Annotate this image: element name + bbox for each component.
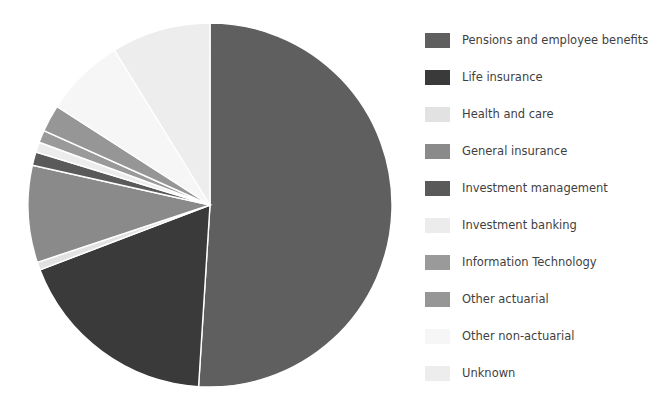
legend-item: General insurance <box>425 133 635 170</box>
legend-item: Unknown <box>425 355 635 392</box>
legend-item-label: Unknown <box>462 367 515 381</box>
pie-svg <box>28 23 392 387</box>
legend-item-label: Other actuarial <box>462 293 549 307</box>
legend-item-label: Investment management <box>462 182 608 196</box>
legend-swatch <box>425 255 450 270</box>
legend-swatch <box>425 329 450 344</box>
legend-item: Investment banking <box>425 207 635 244</box>
pie-plot-area <box>28 23 392 387</box>
legend-item-label: Pensions and employee benefits <box>462 34 648 48</box>
pie-slice <box>199 23 392 387</box>
legend-swatch <box>425 33 450 48</box>
legend-swatch <box>425 70 450 85</box>
legend-item: Other actuarial <box>425 281 635 318</box>
legend-item-label: Other non-actuarial <box>462 330 574 344</box>
legend-swatch <box>425 292 450 307</box>
legend-item: Pensions and employee benefits <box>425 22 635 59</box>
legend-swatch <box>425 218 450 233</box>
legend-item-label: Life insurance <box>462 71 543 85</box>
legend-swatch <box>425 144 450 159</box>
legend-item: Information Technology <box>425 244 635 281</box>
legend-item-label: Information Technology <box>462 256 597 270</box>
legend-item-label: Investment banking <box>462 219 577 233</box>
clipped-title-strip <box>0 0 635 9</box>
legend-item: Health and care <box>425 96 635 133</box>
legend-item-label: General insurance <box>462 145 567 159</box>
legend-item: Investment management <box>425 170 635 207</box>
legend-item: Life insurance <box>425 59 635 96</box>
legend-swatch <box>425 181 450 196</box>
legend-item: Other non-actuarial <box>425 318 635 355</box>
legend-swatch <box>425 366 450 381</box>
chart-legend: Pensions and employee benefitsLife insur… <box>425 22 635 392</box>
legend-swatch <box>425 107 450 122</box>
legend-item-label: Health and care <box>462 108 554 122</box>
